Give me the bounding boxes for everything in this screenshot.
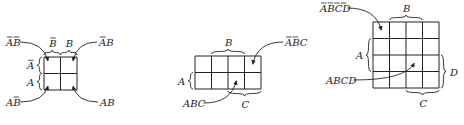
curly-brace: [37, 57, 42, 74]
brace-label: D: [449, 67, 458, 78]
curly-brace: [37, 74, 42, 91]
brace-b̄: B: [44, 38, 61, 55]
brace-label-text: A: [177, 76, 185, 87]
callout-ab: AB: [73, 86, 115, 108]
brace-a: A: [26, 74, 42, 91]
curly-brace: [390, 15, 423, 20]
callout-label: AB: [99, 97, 115, 108]
callout-label: AB: [5, 37, 21, 48]
brace-b: B: [212, 37, 245, 54]
callout-label: ABC: [182, 98, 206, 109]
curly-brace: [366, 39, 371, 72]
leader-arrow: [204, 81, 236, 103]
brace-label-text: A: [26, 77, 34, 88]
leader-arrow: [347, 8, 381, 30]
brace-label: A: [26, 60, 34, 71]
callout-nanbncnd: ABCD: [319, 3, 381, 30]
callout-label-text: AB: [5, 97, 21, 108]
callout-label-text: AB: [99, 97, 115, 108]
callout-label-text: AB: [5, 37, 21, 48]
brace-label-text: B: [48, 38, 56, 49]
callout-label: ABCD: [325, 75, 356, 86]
curly-brace: [188, 73, 193, 90]
brace-label: B: [48, 38, 56, 49]
brace-label-text: A: [355, 50, 363, 61]
curly-brace: [212, 49, 245, 54]
callout-label: ABC: [284, 37, 308, 48]
curly-brace: [61, 50, 78, 55]
kmap-4var: BADCABCDABCD: [319, 3, 458, 109]
brace-label: A: [26, 77, 34, 88]
brace-ā: A: [26, 57, 42, 74]
brace-label-text: A: [26, 60, 34, 71]
callout-label-text: ABCD: [325, 75, 356, 86]
callout-label: AB: [5, 97, 21, 108]
callout-label-text: ABCD: [319, 3, 350, 14]
brace-c: C: [406, 90, 439, 109]
kmap-3var: BACABCABC: [177, 37, 308, 110]
callout-label: AB: [98, 37, 114, 48]
brace-label: B: [224, 37, 232, 48]
brace-a: A: [355, 39, 371, 72]
brace-a: A: [177, 73, 193, 90]
brace-label-text: D: [449, 67, 458, 78]
brace-label: B: [402, 3, 410, 14]
curly-brace: [441, 55, 446, 88]
brace-label-text: C: [420, 98, 428, 109]
brace-label-text: B: [65, 38, 73, 49]
brace-label-text: C: [242, 99, 250, 110]
brace-label: A: [177, 76, 185, 87]
brace-c: C: [228, 91, 261, 110]
callout-label-text: ABC: [182, 98, 206, 109]
kmap-grid: [195, 56, 261, 89]
leader-arrow: [253, 42, 283, 64]
kmap-grid: [44, 57, 77, 90]
curly-brace: [228, 91, 261, 96]
curly-brace: [44, 50, 61, 55]
brace-d: D: [441, 55, 458, 88]
brace-label: C: [242, 99, 250, 110]
brace-b: B: [61, 38, 78, 55]
brace-label: C: [420, 98, 428, 109]
callout-label-text: AB: [98, 37, 114, 48]
curly-brace: [406, 90, 439, 95]
diagram-canvas: BBAAABABABABBACABCABCBADCABCDABCD: [0, 0, 464, 125]
callout-anb: AB: [5, 86, 48, 108]
karnaugh-map-figure: BBAAABABABABBACABCABCBADCABCDABCD: [0, 0, 464, 125]
callout-label: ABCD: [319, 3, 350, 14]
brace-label: A: [355, 50, 363, 61]
brace-b: B: [390, 3, 423, 20]
callout-nab: AB: [73, 37, 114, 61]
callout-abcd: ABCD: [325, 63, 414, 86]
brace-label-text: B: [224, 37, 232, 48]
brace-label: B: [65, 38, 73, 49]
callout-label-text: ABC: [284, 37, 308, 48]
brace-label-text: B: [402, 3, 410, 14]
kmap-2var: BBAAABABABAB: [5, 37, 115, 108]
